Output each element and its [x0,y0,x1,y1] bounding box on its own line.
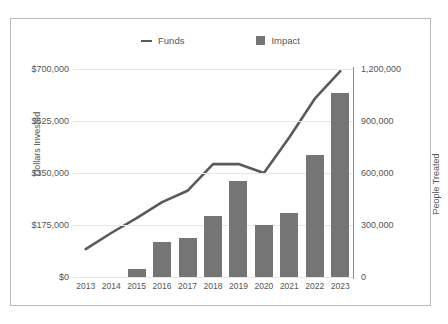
x-axis-tick-2023: 2023 [327,281,353,291]
chart-legend: Funds Impact [11,35,430,46]
bar-2019 [229,181,247,277]
bar-2015 [128,269,146,277]
legend-label-impact: Impact [271,35,300,46]
bar-2021 [280,213,298,277]
bar-2023 [331,93,349,277]
bar-2016 [153,242,171,277]
y-axis-left-tick-label: $525,000 [31,116,69,126]
chart-frame: Funds Impact Dollars Invested People Tre… [10,18,431,306]
y-axis-left-tick-label: $0 [59,272,69,282]
gridline [73,277,353,278]
y-axis-left-tick-label: $700,000 [31,64,69,74]
bar-2017 [179,238,197,277]
x-axis-tick-2020: 2020 [251,281,277,291]
x-axis-tick-2019: 2019 [225,281,251,291]
y-axis-right-line [353,67,354,279]
y-axis-left-tick-label: $175,000 [31,220,69,230]
x-axis-tick-2013: 2013 [73,281,99,291]
gridline [73,69,353,70]
plot-area [73,69,353,277]
y-axis-right-tick-label: 300,000 [361,220,394,230]
legend-item-funds: Funds [141,35,184,46]
x-axis-tick-2015: 2015 [124,281,150,291]
y-axis-right-tick-label: 900,000 [361,116,394,126]
y-axis-left-ticks: $0$175,000$350,000$525,000$700,000 [11,69,69,277]
line-marker-icon [141,40,152,42]
x-axis-tick-2016: 2016 [149,281,175,291]
x-axis-tick-2014: 2014 [98,281,124,291]
y-axis-left-tick-label: $350,000 [31,168,69,178]
legend-item-impact: Impact [256,35,300,46]
square-swatch-icon [256,36,265,45]
gridline [73,121,353,122]
bar-2022 [306,155,324,277]
x-axis-tick-2017: 2017 [175,281,201,291]
y-axis-right-tick-label: 1,200,000 [361,64,401,74]
y-axis-right-ticks: 0300,000600,000900,0001,200,000 [361,69,441,277]
x-axis-tick-2022: 2022 [302,281,328,291]
y-axis-right-tick-label: 600,000 [361,168,394,178]
bar-2018 [204,216,222,277]
x-axis-tick-2021: 2021 [276,281,302,291]
legend-label-funds: Funds [158,35,184,46]
y-axis-right-tick-label: 0 [361,272,366,282]
x-axis-ticks: 2013201420152016201720182019202020212022… [73,281,353,295]
bar-2020 [255,225,273,277]
x-axis-tick-2018: 2018 [200,281,226,291]
